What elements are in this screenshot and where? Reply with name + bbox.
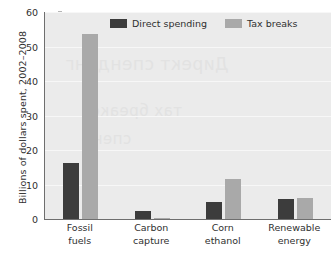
legend-swatch-icon [110,19,127,28]
y-tick-label-30: 30 [18,110,38,121]
y-tick-label-0: 0 [18,214,38,225]
bar-group [278,12,313,219]
bar-group [63,12,98,219]
legend-item: Tax breaks [225,18,298,29]
legend-label: Direct spending [132,18,207,29]
y-tick-label-10: 10 [18,179,38,190]
y-tick-label-40: 40 [18,76,38,87]
legend-swatch-icon [225,19,242,28]
plot-area: Директ спендинг тах бреакс спент [44,12,331,220]
legend-label: Tax breaks [247,18,298,29]
x-axis-label-corn-ethanol: Cornethanol [187,222,259,247]
x-axis-label-fossil-fuels: Fossilfuels [44,222,116,247]
y-axis-ticks: 0102030405060 [18,0,38,255]
y-tick-label-20: 20 [18,145,38,156]
bar [63,163,79,219]
bar [278,199,294,219]
bar [154,218,170,219]
bar [135,211,151,219]
bar-chart-figure: Billions of dollars spent, 2002–2008 010… [0,0,333,255]
bar [297,198,313,219]
y-tick-label-50: 50 [18,41,38,52]
x-axis-labels: FossilfuelsCarboncaptureCornethanolRenew… [44,222,331,255]
bar [82,34,98,219]
y-tick-label-60: 60 [18,7,38,18]
bar [225,179,241,219]
x-axis-label-renewable-energy: Renewableenergy [259,222,331,247]
chart-legend: Direct spendingTax breaks [110,18,298,29]
legend-item: Direct spending [110,18,207,29]
bar-group [135,12,170,219]
x-axis-label-carbon-capture: Carboncapture [116,222,188,247]
bar [206,202,222,219]
bar-group [206,12,241,219]
